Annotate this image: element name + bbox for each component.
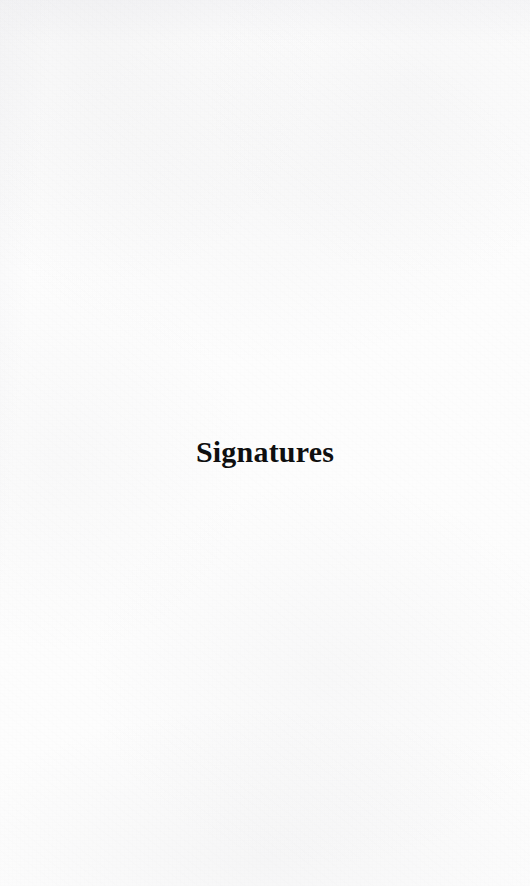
scanned-page: Signatures xyxy=(0,0,530,886)
section-title: Signatures xyxy=(0,434,530,470)
